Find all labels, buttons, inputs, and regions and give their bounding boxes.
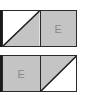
- tile-label: E: [41, 23, 77, 35]
- half-square-triangle-icon: [3, 11, 40, 46]
- half-square-triangle-icon: [41, 56, 77, 91]
- tile-row-bottom: E: [2, 55, 77, 92]
- tile-label: E: [3, 68, 40, 80]
- tile-solid-bottom-left: E: [3, 56, 40, 91]
- tile-diagonal-top-left: [3, 11, 40, 46]
- tile-diagonal-bottom-right: [40, 56, 77, 91]
- tile-row-top: E: [2, 10, 77, 47]
- tile-solid-top-right: E: [40, 11, 77, 46]
